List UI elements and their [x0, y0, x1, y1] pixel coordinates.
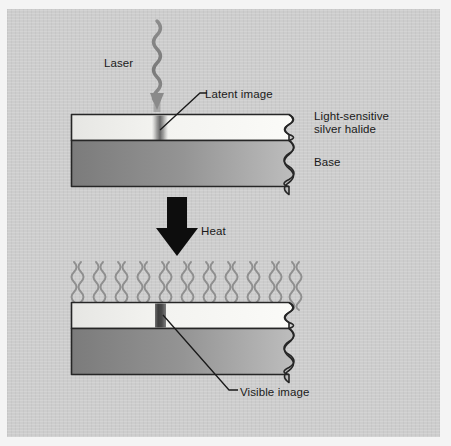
label-laser: Laser [104, 57, 133, 70]
laser-beam-icon [150, 21, 164, 112]
emulsion-layer-developed [72, 303, 294, 329]
diagram-graphics [0, 0, 451, 446]
label-visible-image: Visible image [240, 386, 310, 399]
latent-image-mark [152, 116, 168, 141]
label-latent-image: Latent image [205, 88, 273, 101]
visible-image-mark [155, 304, 166, 328]
diagram-canvas: Laser Latent image Light-sensitive silve… [0, 0, 451, 446]
label-heat: Heat [201, 225, 226, 238]
emulsion-layer-exposure [72, 115, 294, 141]
base-layer-exposure [72, 141, 294, 195]
heat-arrow-icon [156, 197, 198, 256]
label-silver-halide: Light-sensitive silver halide [314, 110, 389, 136]
film-slab-exposure [72, 115, 295, 195]
film-slab-developed [72, 303, 295, 383]
label-base: Base [314, 156, 341, 169]
